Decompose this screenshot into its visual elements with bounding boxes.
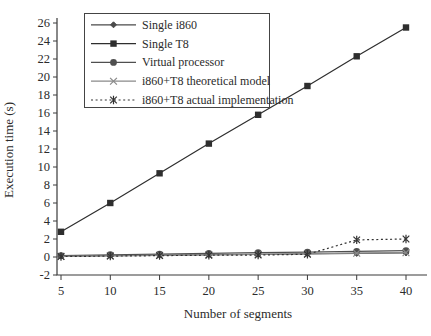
x-tick-label: 30 [301, 284, 314, 298]
y-tick-label: 14 [38, 124, 51, 138]
y-tick-label: 26 [38, 16, 51, 30]
square-marker-icon [255, 112, 261, 118]
x-tick-label: 25 [252, 284, 265, 298]
square-marker-icon [304, 83, 310, 89]
x-tick-label: 15 [153, 284, 166, 298]
y-axis-title: Execution time (s) [1, 102, 16, 198]
legend-label-single-t8: Single T8 [142, 37, 189, 51]
y-tick-label: 0 [44, 250, 50, 264]
y-tick-label: 24 [38, 34, 51, 48]
execution-time-line-chart: -202468101214161820222426510152025303540… [0, 0, 431, 336]
y-tick-label: 16 [38, 106, 51, 120]
square-marker-icon [206, 140, 212, 146]
square-marker-icon [354, 53, 360, 59]
square-marker-icon [403, 24, 409, 30]
legend-label-single-i860: Single i860 [142, 18, 197, 32]
x-tick-label: 40 [400, 284, 413, 298]
legend-label-i860-t8-theoretical-model: i860+T8 theoretical model [142, 74, 271, 88]
x-tick-label: 20 [203, 284, 216, 298]
x-tick-label: 10 [104, 284, 117, 298]
y-tick-label: 18 [38, 88, 51, 102]
x-tick-label: 35 [350, 284, 363, 298]
y-tick-label: 22 [38, 52, 51, 66]
y-tick-label: 20 [38, 70, 51, 84]
square-marker-icon [110, 40, 116, 46]
x-tick-label: 5 [58, 284, 64, 298]
circle-marker-icon [110, 59, 117, 66]
y-tick-label: -2 [40, 268, 50, 282]
square-marker-icon [107, 200, 113, 206]
y-tick-label: 4 [44, 214, 51, 228]
chart-svg: -202468101214161820222426510152025303540… [0, 0, 431, 336]
y-tick-label: 6 [44, 196, 50, 210]
y-tick-label: 12 [38, 142, 51, 156]
legend-label-virtual-processor: Virtual processor [142, 55, 224, 69]
legend-label-i860-t8-actual-implementation: i860+T8 actual implementation [142, 93, 293, 107]
square-marker-icon [58, 229, 64, 235]
square-marker-icon [156, 170, 162, 176]
y-tick-label: 10 [38, 160, 51, 174]
x-axis-title: Number of segments [184, 306, 292, 321]
y-tick-label: 2 [44, 232, 50, 246]
y-tick-label: 8 [44, 178, 50, 192]
asterisk-marker-icon [403, 235, 410, 243]
